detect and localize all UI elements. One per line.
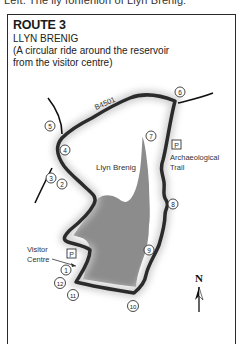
svg-text:N: N [195,272,203,284]
marker-9: 9 [144,245,154,255]
svg-text:5: 5 [48,123,52,130]
svg-text:6: 6 [178,89,182,96]
marker-10: 10 [128,301,139,312]
lake-label: Llyn Brenig [96,163,136,172]
marker-3: 3 [46,173,56,183]
svg-text:12: 12 [57,281,64,287]
marker-4: 4 [60,145,70,155]
svg-text:11: 11 [70,293,77,299]
north-arrow-icon: N [195,272,203,312]
marker-7: 7 [146,131,156,141]
svg-text:3: 3 [49,175,53,182]
svg-text:8: 8 [171,201,175,208]
archaeological-trail-label-2: Trail [170,163,185,172]
svg-text:4: 4 [63,147,67,154]
marker-12: 12 [55,278,66,289]
marker-5: 5 [45,121,55,131]
svg-text:2: 2 [60,181,64,188]
archaeological-trail-label: Archaeological [170,153,220,162]
parking-symbol-2: P [69,251,74,258]
visitor-centre-label-2: Centre [27,255,50,264]
svg-text:9: 9 [147,247,151,254]
marker-2: 2 [57,179,67,189]
marker-8: 8 [168,199,178,209]
svg-text:1: 1 [64,267,68,274]
marker-1: 1 [61,265,71,275]
marker-11: 11 [68,290,79,301]
visitor-centre-label: Visitor [27,245,48,254]
parking-symbol: P [174,142,179,149]
marker-6: 6 [175,87,185,97]
svg-text:10: 10 [130,304,137,310]
svg-text:7: 7 [149,133,153,140]
